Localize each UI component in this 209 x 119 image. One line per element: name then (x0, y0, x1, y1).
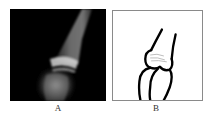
panel-label-a: A (52, 104, 64, 113)
xray-panel (10, 9, 106, 101)
panel-label-b: B (150, 104, 162, 113)
xray-image (10, 9, 106, 101)
schematic-drawing (113, 11, 202, 100)
schematic-panel (112, 10, 203, 101)
